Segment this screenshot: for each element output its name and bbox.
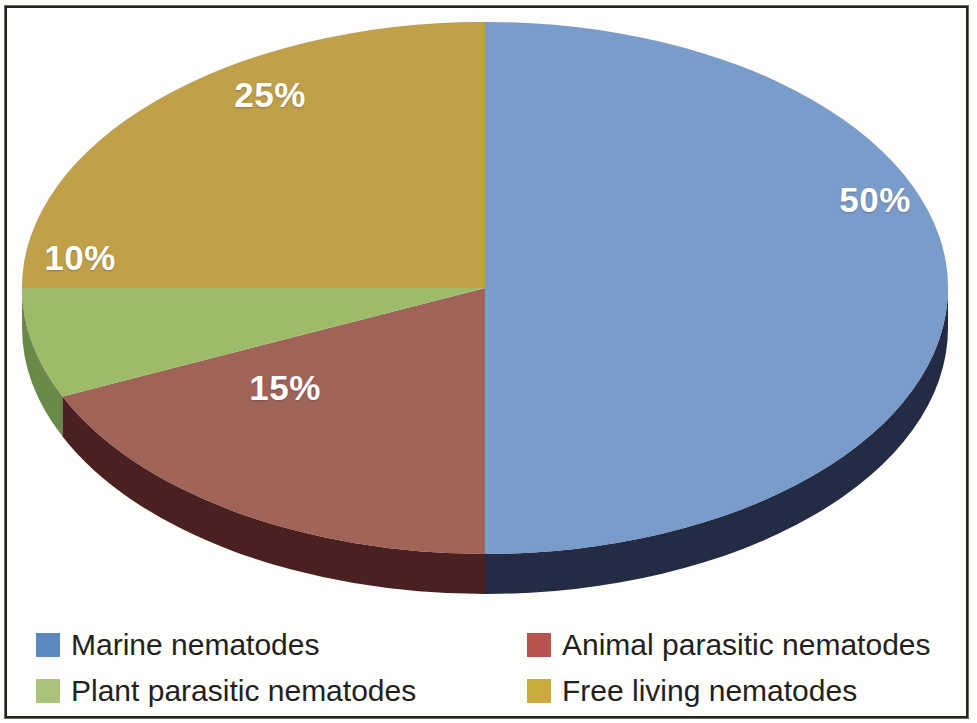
legend-label-free-living-nematodes: Free living nematodes [562,676,857,706]
pie-label-animal-parasitic-nematodes: 15% [249,368,321,408]
legend-row: Marine nematodes Animal parasitic nemato… [0,622,977,667]
legend-item-free-living-nematodes[interactable]: Free living nematodes [527,668,857,713]
pie-top-surface [22,22,948,554]
legend-row: Plant parasitic nematodes Free living ne… [0,668,977,713]
legend-item-plant-parasitic-nematodes[interactable]: Plant parasitic nematodes [36,668,416,713]
chart-legend: Marine nematodes Animal parasitic nemato… [0,612,977,723]
legend-swatch-icon-animal-parasitic-nematodes [527,633,551,657]
pie-label-plant-parasitic-nematodes: 10% [44,238,116,278]
pie-chart: 50% 15% 10% 25% [0,0,977,610]
legend-item-marine-nematodes[interactable]: Marine nematodes [36,622,319,667]
legend-label-animal-parasitic-nematodes: Animal parasitic nematodes [562,630,931,660]
pie-chart-svg [0,0,977,610]
legend-label-marine-nematodes: Marine nematodes [71,630,319,660]
pie-label-marine-nematodes: 50% [839,180,911,220]
legend-swatch-icon-marine-nematodes [36,633,60,657]
pie-label-free-living-nematodes: 25% [234,75,306,115]
pie-chart-screenshot: 50% 15% 10% 25% Marine nematodes Animal … [0,0,977,723]
legend-swatch-icon-free-living-nematodes [527,679,551,703]
legend-item-animal-parasitic-nematodes[interactable]: Animal parasitic nematodes [527,622,931,667]
legend-label-plant-parasitic-nematodes: Plant parasitic nematodes [71,676,416,706]
pie-slice-marine-nematodes[interactable] [485,22,948,554]
legend-swatch-icon-plant-parasitic-nematodes [36,679,60,703]
